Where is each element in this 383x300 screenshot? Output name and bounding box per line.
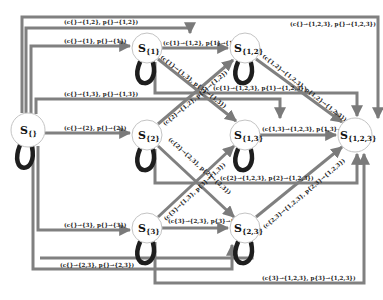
label-empty-to-123: (c{}→{1,2,3}, p{}→{1,2,3}) <box>290 21 376 28</box>
self-loop-13 <box>235 149 252 170</box>
edge-23-to-123-bottom <box>40 242 252 258</box>
label-3-to-123: (c{3}→{1,2,3}, p{3}→{1,2,3}) <box>262 275 356 282</box>
edge-empty-to-13 <box>36 99 280 118</box>
node-s-12: S{1,2} <box>230 33 263 63</box>
label-empty-to-3: (c{}→{3}, p{}→{3}) <box>64 222 127 229</box>
label-empty-to-2: (c{}→{2}, p{}→{2}) <box>64 125 127 132</box>
label-2-to-123: (c{2}→{1,2,3}, p{2}→{1,2,3}) <box>220 175 314 182</box>
node-s-1: S{1} <box>132 33 162 63</box>
node-s-2: S{2} <box>132 120 162 150</box>
label-empty-to-1: (c{}→{1}, p{}→{1}) <box>64 38 127 45</box>
label-empty-to-12: (c{}→{1,2}, p{}→{1,2}) <box>64 19 138 26</box>
edge-empty-to-3 <box>38 146 130 230</box>
self-loop-empty <box>17 145 33 168</box>
node-s-13: S{1,3} <box>230 120 263 150</box>
self-loop-12 <box>235 62 252 83</box>
node-s-3: S{3} <box>132 213 162 243</box>
node-s-empty: S{} <box>11 113 45 147</box>
node-s-123: S{1,2,3} <box>338 118 376 152</box>
self-loop-23 <box>235 242 252 263</box>
self-loop-1 <box>137 62 154 83</box>
label-3-to-13: (c{3}→{1,3}, p{3}→{1,3}) <box>163 161 228 222</box>
self-loop-2 <box>137 149 154 170</box>
label-23-to-123: (c{2,3}→{1,2,3}, p{2,3}→{1,2,3}) <box>262 157 347 230</box>
node-s-23: S{2,3} <box>230 213 263 243</box>
label-1-to-123: (c{1}→{1,2,3}, p{1}→{1,2,3}) <box>213 85 307 92</box>
self-loop-3 <box>137 242 154 263</box>
state-transition-diagram: (c{}→{1,2}, p{}→{1,2}) (c{}→{1}, p{}→{1}… <box>0 0 383 300</box>
edge-empty-to-1 <box>31 46 130 114</box>
label-empty-to-13: (c{}→{1,3}, p{}→{1,3}) <box>64 91 138 98</box>
label-empty-to-23: (c{}→{2,3}, p{}→{2,3}) <box>60 262 134 269</box>
